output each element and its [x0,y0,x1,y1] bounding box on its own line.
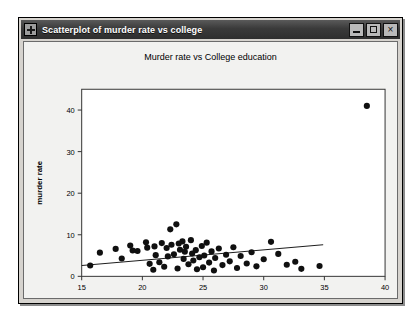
data-point [204,240,210,246]
data-point [193,247,199,253]
data-point [200,264,206,270]
data-point [87,262,93,268]
data-point [248,249,254,255]
y-tick-label: 30 [66,148,74,157]
data-point [238,253,244,259]
data-point [134,248,140,254]
x-tick-label: 35 [320,283,328,292]
x-tick-label: 30 [260,283,268,292]
data-point [147,261,153,267]
window-title: Scatterplot of murder rate vs college [42,25,349,35]
plot-surface: Murder rate vs College education 1520253… [24,42,397,298]
data-point [230,244,236,250]
data-point [143,239,149,245]
data-point [183,244,189,250]
data-point [194,266,200,272]
data-point [150,267,156,273]
screenshot-root: Scatterplot of murder rate vs college × … [0,0,420,320]
data-point [151,243,157,249]
data-point [292,259,298,265]
application-window: Scatterplot of murder rate vs college × … [18,17,403,304]
data-point [113,246,119,252]
x-tick-label: 20 [138,283,146,292]
data-point [206,260,212,266]
y-tick-label: 0 [71,272,75,281]
window-client-area: Murder rate vs College education 1520253… [23,41,398,299]
data-point [181,256,187,262]
data-point [219,262,225,268]
data-point [234,265,240,271]
data-point [167,226,173,232]
move-crosshair-icon [24,23,37,36]
data-point [275,251,281,257]
data-point [156,259,162,265]
data-point [223,252,229,258]
data-point [227,258,233,264]
data-point [216,245,222,251]
x-tick-label: 15 [78,283,86,292]
data-point [211,267,217,273]
data-point [119,255,125,261]
data-point [165,253,171,259]
minimize-button[interactable] [349,23,364,37]
window-titlebar[interactable]: Scatterplot of murder rate vs college × [21,20,400,39]
y-axis-label: murder rate [35,160,44,204]
data-point [188,237,194,243]
data-point [159,240,165,246]
data-point [171,251,177,257]
data-point [174,265,180,271]
x-tick-label: 25 [199,283,207,292]
data-point [261,256,267,262]
close-icon: × [384,24,397,36]
data-point [201,252,207,258]
data-point [190,257,196,263]
data-point [97,250,103,256]
close-button[interactable]: × [383,23,398,37]
data-point [179,238,185,244]
y-axis-ticks: 010203040 [66,106,81,281]
data-point [212,255,218,261]
data-point [144,245,150,251]
scatter-plot: 152025303540 010203040 college murder ra… [24,42,397,298]
data-point [168,242,174,248]
y-tick-label: 20 [66,189,74,198]
data-point [284,262,290,268]
y-tick-label: 10 [66,231,74,240]
data-point [364,103,370,109]
data-point [173,221,179,227]
data-point [298,266,304,272]
data-point [244,260,250,266]
data-point [208,248,214,254]
data-point [316,263,322,269]
y-tick-label: 40 [66,106,74,115]
data-point [161,264,167,270]
data-point [153,252,159,258]
data-point [185,261,191,267]
x-axis-ticks: 152025303540 [78,276,390,292]
data-point [268,239,274,245]
data-point [253,263,259,269]
x-tick-label: 40 [381,283,389,292]
maximize-button[interactable] [366,23,381,37]
window-controls: × [349,23,398,37]
